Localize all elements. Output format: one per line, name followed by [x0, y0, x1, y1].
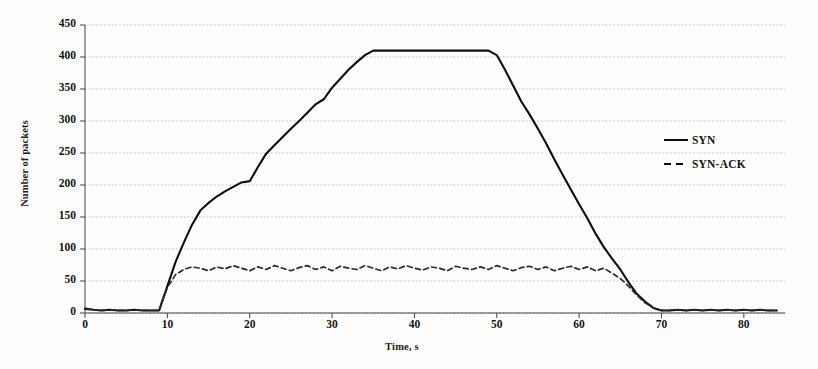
- legend-item-syn-ack: SYN-ACK: [663, 152, 785, 176]
- legend-swatch-dashed-icon: [663, 159, 689, 169]
- legend-label-syn: SYN: [692, 134, 716, 146]
- legend-item-syn: SYN: [663, 128, 785, 152]
- legend: SYN SYN-ACK: [663, 128, 785, 176]
- data-series-group: [85, 51, 777, 311]
- series-line-syn: [85, 51, 777, 311]
- chart-container: Number of packets 4504003503002502001501…: [0, 0, 818, 369]
- series-line-syn-ack: [85, 266, 777, 311]
- plot-area: [0, 0, 818, 369]
- legend-label-syn-ack: SYN-ACK: [692, 158, 746, 170]
- legend-swatch-solid-icon: [663, 135, 689, 145]
